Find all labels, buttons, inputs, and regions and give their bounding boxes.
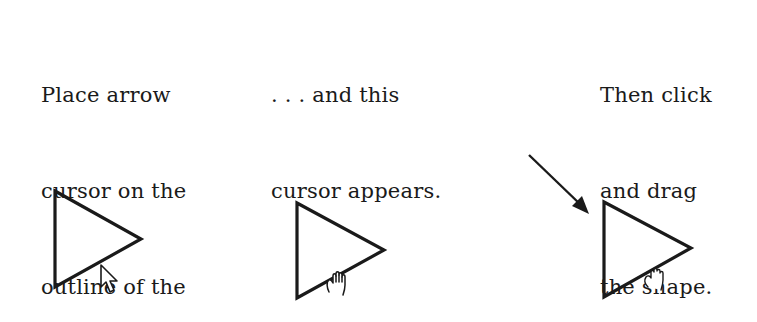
arrow-pointer-icon [101, 265, 117, 292]
triangle-shape[interactable] [55, 191, 141, 287]
step2-figure [297, 203, 384, 298]
drag-arrow-icon [529, 155, 589, 214]
step1-figure [55, 191, 141, 292]
step3-figure [529, 155, 691, 297]
grab-hand-icon [327, 272, 345, 295]
